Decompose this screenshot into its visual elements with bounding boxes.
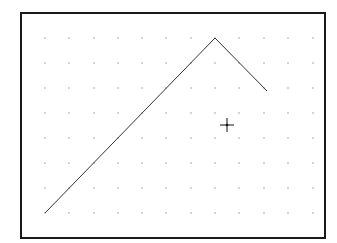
grid-dot (214, 62, 215, 63)
grid-dot (287, 162, 288, 163)
grid-dot (141, 37, 142, 38)
grid-dot (141, 62, 142, 63)
grid-dot (93, 187, 94, 188)
grid-dot (44, 87, 45, 88)
grid-dot (312, 112, 313, 113)
grid-dot (141, 137, 142, 138)
grid-dot (287, 112, 288, 113)
grid-dot (44, 187, 45, 188)
grid-dot (214, 112, 215, 113)
grid-dot (68, 37, 69, 38)
grid-dot (165, 212, 166, 213)
grid-dot (68, 112, 69, 113)
grid-dot (141, 212, 142, 213)
grid-dot (44, 112, 45, 113)
grid-dot (117, 62, 118, 63)
grid-dot (68, 62, 69, 63)
grid-dot (117, 87, 118, 88)
grid-dot (312, 137, 313, 138)
grid-dot (93, 212, 94, 213)
grid-dot (141, 87, 142, 88)
grid-dot (263, 212, 264, 213)
grid-dot (214, 87, 215, 88)
grid-dot (287, 137, 288, 138)
grid-dot (190, 87, 191, 88)
grid-dot (117, 187, 118, 188)
grid-dot (238, 162, 239, 163)
grid-dot (165, 62, 166, 63)
grid-dot (263, 187, 264, 188)
grid-dot (44, 137, 45, 138)
grid-dot (263, 62, 264, 63)
grid-dot (238, 87, 239, 88)
drawing-surface[interactable] (0, 0, 337, 243)
grid-dot (165, 37, 166, 38)
crosshair-center (226, 124, 229, 127)
grid-dot (214, 137, 215, 138)
grid-dot (287, 62, 288, 63)
grid-dot (165, 162, 166, 163)
grid-dot (238, 137, 239, 138)
grid-dot (190, 112, 191, 113)
grid-dot (312, 37, 313, 38)
grid-dot (165, 112, 166, 113)
grid-dot (141, 162, 142, 163)
grid-dot (190, 162, 191, 163)
grid-dot (165, 137, 166, 138)
grid-dot (238, 187, 239, 188)
grid-dot (214, 187, 215, 188)
grid-dot (93, 87, 94, 88)
grid-dot (117, 37, 118, 38)
grid-dot (190, 37, 191, 38)
grid-dot (238, 212, 239, 213)
grid-dot (190, 212, 191, 213)
grid-dot (68, 162, 69, 163)
grid-dot (214, 162, 215, 163)
grid-dot (68, 87, 69, 88)
grid-dot (287, 187, 288, 188)
grid-dot (238, 112, 239, 113)
grid-dot (44, 37, 45, 38)
grid-dot (68, 137, 69, 138)
drawing-canvas[interactable] (0, 0, 337, 243)
grid-dot (190, 137, 191, 138)
grid-dot (263, 112, 264, 113)
grid-dot (68, 212, 69, 213)
grid-dot (312, 87, 313, 88)
grid-dot (312, 162, 313, 163)
grid-dot (287, 37, 288, 38)
grid-dot (190, 187, 191, 188)
grid-dot (263, 162, 264, 163)
grid-dot (287, 212, 288, 213)
grid-dot (165, 187, 166, 188)
grid-dot (238, 37, 239, 38)
grid-dot (214, 212, 215, 213)
canvas-background (0, 0, 337, 243)
grid-dot (287, 87, 288, 88)
grid-dot (117, 212, 118, 213)
grid-dot (312, 212, 313, 213)
grid-dot (117, 162, 118, 163)
grid-dot (93, 37, 94, 38)
grid-dot (141, 187, 142, 188)
grid-dot (117, 112, 118, 113)
grid-dot (312, 62, 313, 63)
grid-dot (263, 137, 264, 138)
grid-dot (312, 187, 313, 188)
grid-dot (44, 162, 45, 163)
grid-dot (263, 37, 264, 38)
grid-dot (44, 62, 45, 63)
grid-dot (93, 112, 94, 113)
grid-dot (93, 137, 94, 138)
grid-dot (93, 62, 94, 63)
